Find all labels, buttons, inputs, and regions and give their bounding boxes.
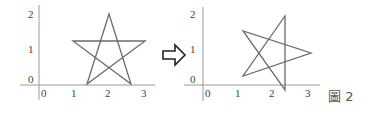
left-y-tick-0: 0 [28,73,34,85]
figure-canvas: 2 1 0 0 1 2 3 2 1 0 0 1 2 3 [0,0,368,113]
left-x-tick-1: 1 [71,87,77,99]
right-x-tick-0: 0 [205,87,211,99]
left-plot: 2 1 0 0 1 2 3 [20,5,155,100]
left-x-tick-0: 0 [41,87,47,99]
left-star [73,14,145,84]
left-x-tick-2: 2 [105,87,111,99]
right-y-tick-1: 1 [190,43,196,55]
right-x-tick-1: 1 [235,87,241,99]
right-plot: 2 1 0 0 1 2 3 [184,7,320,101]
figure-caption: 圖 2 [328,86,353,105]
left-x-tick-3: 3 [141,87,147,99]
right-y-tick-2: 2 [190,8,196,20]
left-y-tick-1: 1 [28,43,34,55]
right-star [243,16,311,90]
right-x-tick-3: 3 [305,87,311,99]
right-x-tick-2: 2 [269,87,275,99]
right-y-tick-0: 0 [190,73,196,85]
transformation-arrow-icon [163,45,185,65]
left-y-tick-2: 2 [28,8,34,20]
